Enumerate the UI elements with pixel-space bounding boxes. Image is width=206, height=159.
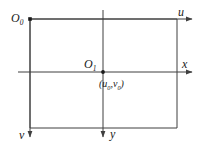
label-origin-pixel: O0 bbox=[11, 12, 23, 27]
image-origin-dot bbox=[101, 70, 105, 74]
pixel-origin-dot bbox=[28, 17, 32, 21]
label-principal-point: (u0,v0) bbox=[99, 79, 124, 91]
coordinate-frame-diagram: O0 u O1 x (u0,v0) v y bbox=[0, 0, 206, 159]
label-origin-image-sub: 1 bbox=[93, 64, 97, 73]
label-axis-x: x bbox=[182, 58, 187, 70]
label-axis-y: y bbox=[110, 128, 115, 140]
paren-close: ) bbox=[120, 78, 123, 89]
label-origin-pixel-sub: 0 bbox=[20, 18, 24, 27]
label-axis-v: v bbox=[19, 129, 24, 141]
label-origin-image: O1 bbox=[84, 58, 96, 73]
label-origin-image-base: O bbox=[84, 57, 93, 71]
label-origin-pixel-base: O bbox=[11, 11, 20, 25]
label-axis-u: u bbox=[178, 6, 184, 18]
